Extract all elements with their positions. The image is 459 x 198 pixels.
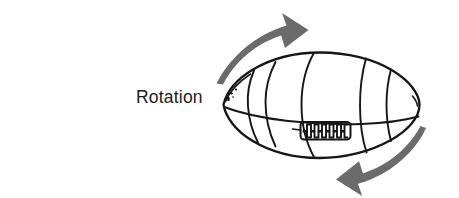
ball-laces xyxy=(293,122,351,140)
ball-vertical-seam-center xyxy=(302,53,315,157)
football-drawing xyxy=(224,53,420,159)
ball-vertical-seam-left-a xyxy=(248,71,258,143)
ball-outline xyxy=(224,53,420,159)
laces-stitching-lower xyxy=(304,132,348,138)
diagram-canvas xyxy=(0,0,459,198)
ball-vertical-seam-right-inner xyxy=(360,59,367,153)
laces-connector xyxy=(293,129,301,130)
ball-right-tip-tick xyxy=(413,96,418,106)
laces-stitching xyxy=(304,125,348,132)
rotation-figure: Rotation xyxy=(0,0,459,198)
ball-vertical-seam-left-b xyxy=(266,62,276,147)
ball-vertical-seam-right-outer xyxy=(387,70,392,142)
top-rotation-arrow xyxy=(217,13,309,85)
